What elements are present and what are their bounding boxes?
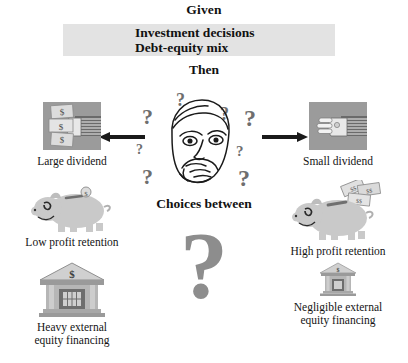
then-label: Then [0,62,408,78]
node-negligible-external-equity-financing: $ Negligible external equity financing [272,262,404,327]
given-item-debt-equity-mix: Debt-equity mix [135,40,335,55]
node-small-dividend: Small dividend [272,100,404,168]
hand-empty-icon [301,100,375,152]
node-heavy-external-equity-financing: $ Heavy external equity financing [6,262,138,347]
svg-text:?: ? [238,165,250,191]
svg-text:$$: $$ [356,198,363,205]
svg-text:$: $ [337,267,340,273]
node-caption: Small dividend [272,155,404,168]
svg-text:?: ? [176,90,185,110]
node-caption: High profit retention [272,245,404,258]
svg-text:$: $ [84,190,88,198]
node-large-dividend: $ $ $ Large dividend [6,100,138,168]
svg-text:$$: $$ [366,188,373,195]
node-caption: Low profit retention [6,236,138,249]
diagram-canvas: Given Investment decisions Debt-equity m… [0,0,408,363]
thinking-face-icon: ? ? ? ? ? ? ? ? [128,84,280,194]
node-caption: Large dividend [6,155,138,168]
svg-text:?: ? [142,164,153,189]
node-caption: Negligible external equity financing [272,301,404,327]
given-item-investment-decisions: Investment decisions [135,25,335,40]
node-high-profit-retention: $$ $$ $$ High [272,180,404,258]
svg-text:?: ? [142,104,153,129]
piggy-bank-empty-icon: $ [28,185,116,233]
node-low-profit-retention: $ Low profit retention [6,185,138,249]
hand-holding-cash-icon: $ $ $ [35,100,109,152]
svg-text:$: $ [59,122,64,132]
svg-text:?: ? [244,105,256,131]
bank-building-large-icon: $ [37,262,107,318]
node-caption: Heavy external equity financing [6,321,138,347]
piggy-bank-full-icon: $$ $$ $$ [286,180,390,242]
given-band-content: Investment decisions Debt-equity mix [63,24,335,56]
svg-text:?: ? [236,143,244,159]
given-label: Given [0,2,408,18]
bank-building-small-icon: $ [318,262,358,298]
svg-text:$: $ [69,268,75,280]
